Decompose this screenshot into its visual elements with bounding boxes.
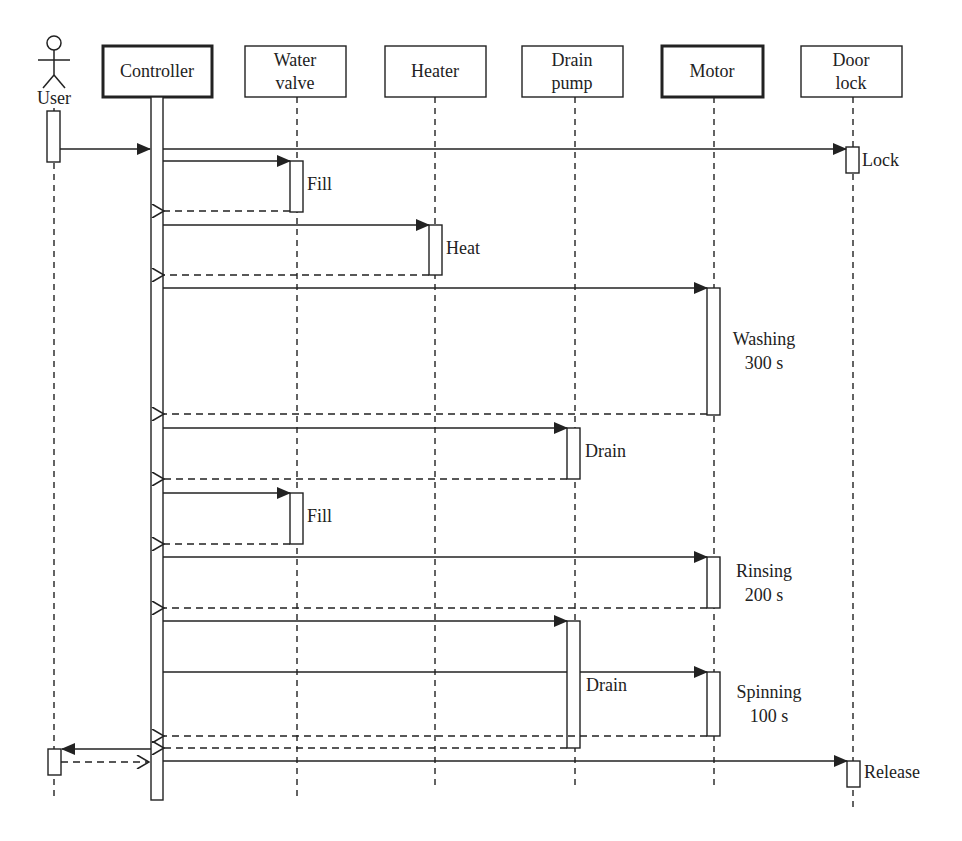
svg-text:Door: Door (833, 50, 870, 70)
activity-labels: Lock Fill Heat Washing 300 s Drain Fill … (307, 150, 920, 782)
label-fill-2: Fill (307, 506, 332, 526)
svg-text:Controller: Controller (120, 61, 194, 81)
label-spinning: Spinning (736, 682, 801, 702)
sequence-diagram: User Controller Water valve Heater Drain… (0, 0, 962, 841)
activation-motor-rinsing (707, 557, 720, 608)
label-rinsing: Rinsing (736, 561, 792, 581)
activation-controller (151, 97, 163, 800)
activation-user-1 (47, 111, 60, 162)
activation-water-valve-fill1 (290, 161, 303, 212)
activation-motor-washing (707, 288, 720, 415)
lifeline-heads (103, 46, 902, 97)
actor-label: User (37, 88, 71, 108)
label-fill-1: Fill (307, 174, 332, 194)
activation-door-lock-release (847, 761, 860, 787)
activation-user-2 (48, 749, 61, 775)
label-drain-1: Drain (585, 441, 626, 461)
activation-motor-spinning (707, 672, 720, 736)
label-lock: Lock (862, 150, 899, 170)
activation-water-valve-fill2 (290, 493, 303, 544)
svg-text:Heater: Heater (411, 61, 459, 81)
label-heat: Heat (446, 238, 480, 258)
svg-text:lock: lock (836, 73, 867, 93)
actor-head-icon (47, 36, 61, 50)
actor-user (38, 36, 70, 88)
svg-text:Water: Water (274, 50, 317, 70)
label-spinning-duration: 100 s (750, 706, 789, 726)
activation-heater-heat (429, 225, 442, 275)
svg-text:valve: valve (276, 73, 315, 93)
svg-text:Drain: Drain (552, 50, 593, 70)
label-rinsing-duration: 200 s (745, 585, 784, 605)
label-release: Release (864, 762, 920, 782)
activation-door-lock-lock (846, 147, 859, 173)
label-washing-duration: 300 s (745, 353, 784, 373)
lifeline-dashes (54, 97, 853, 812)
activation-drain-pump-drain2 (567, 621, 580, 748)
svg-text:pump: pump (551, 73, 592, 93)
label-drain-2: Drain (586, 675, 627, 695)
label-washing: Washing (733, 329, 796, 349)
activation-drain-pump-drain1 (567, 428, 580, 479)
svg-text:Motor: Motor (690, 61, 735, 81)
